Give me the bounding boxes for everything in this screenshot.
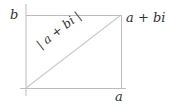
point-label: a + bi [126,11,165,24]
complex-plane-diagram: b a + bi a | a + bi | [0,0,170,106]
imaginary-label: b [10,8,18,21]
real-label: a [115,90,123,103]
